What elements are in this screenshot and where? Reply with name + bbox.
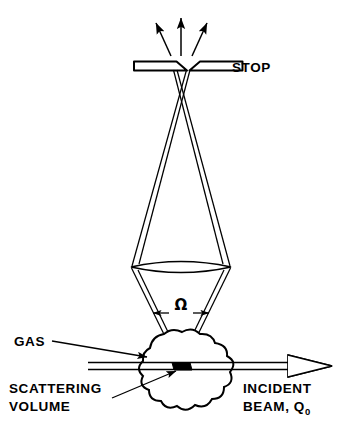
emergent-arrow-right [192,23,207,56]
ray-left-inner [139,70,190,264]
ray-right-inner [174,70,224,264]
gas-leader-line [52,341,147,357]
incident-beam-label-main: BEAM, Q [243,399,305,414]
ray-left-outer [132,70,187,266]
beam-arrowhead-outline [288,355,332,377]
scattering-volume-label-line1: SCATTERING [9,381,102,396]
incident-beam-label-line1: INCIDENT [243,381,312,396]
omega-label: Ω [175,296,188,314]
schematic-svg: Ω STOP GAS SCATTERING VOLUME INCIDENT BE… [0,0,346,430]
emergent-ray-arrows [156,18,207,56]
incident-beam-label-subscript: 0 [305,406,311,417]
emergent-arrow-left [156,23,171,56]
scattering-volume-label-line2: VOLUME [9,399,70,414]
stop-blade-left [134,62,187,71]
stop-label: STOP [232,60,271,75]
figure-canvas: Ω STOP GAS SCATTERING VOLUME INCIDENT BE… [0,0,346,430]
scattering-volume-marker [172,363,192,371]
stop-aperture [134,62,243,71]
collecting-lens [131,262,231,273]
incident-beam-label-line2: BEAM, Q0 [243,399,311,417]
lens-body [131,262,231,273]
gas-label: GAS [14,334,45,349]
ray-bundle [132,70,230,266]
ray-right-outer [177,70,230,266]
